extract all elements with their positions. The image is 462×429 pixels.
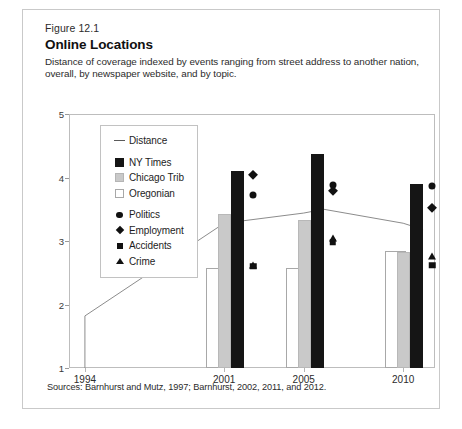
bar-chicago-trib-2010	[397, 252, 410, 368]
y-tick-label: 4	[59, 172, 64, 183]
legend-swatch	[115, 158, 124, 167]
line-icon	[110, 140, 129, 141]
x-tick-label: 2010	[392, 374, 414, 385]
legend-swatch	[116, 258, 124, 264]
marker-crime-2005	[329, 234, 337, 241]
bar-chicago-trib-2005	[298, 220, 311, 368]
figure-header: Figure 12.1 Online Locations Distance of…	[45, 22, 421, 81]
marker-politics-2001	[250, 191, 257, 198]
chart-legend: DistanceNY TimesChicago TribOregonianPol…	[100, 125, 198, 278]
marker-accidents-2010	[429, 262, 436, 269]
marker-politics-2010	[429, 183, 436, 190]
bar-ny-times-2001	[231, 171, 244, 368]
y-tick-label: 3	[59, 236, 64, 247]
legend-label: Crime	[129, 256, 155, 267]
legend-item-ny-times: NY Times	[110, 155, 184, 171]
white-square-icon	[110, 189, 129, 198]
legend-item-crime: Crime	[110, 254, 184, 270]
x-tick-mark	[224, 368, 225, 372]
legend-swatch	[114, 140, 125, 141]
gray-square-icon	[110, 173, 129, 182]
legend-swatch	[115, 226, 123, 234]
x-tick-mark	[403, 368, 404, 372]
y-tick-label: 1	[59, 363, 64, 374]
circle-icon	[110, 212, 129, 219]
y-tick-label: 2	[59, 299, 64, 310]
bar-ny-times-2005	[311, 154, 324, 368]
legend-label: Oregonian	[129, 188, 175, 199]
y-tick-mark	[65, 305, 69, 306]
diamond-icon	[110, 227, 129, 233]
square-icon	[110, 243, 129, 249]
x-tick-mark	[85, 368, 86, 372]
bar-ny-times-2010	[410, 184, 423, 368]
legend-item-employment: Employment	[110, 223, 184, 239]
legend-item-politics: Politics	[110, 207, 184, 223]
legend-label: Employment	[129, 225, 184, 236]
x-tick-mark	[304, 368, 305, 372]
legend-swatch	[115, 173, 124, 182]
legend-label: Politics	[129, 209, 160, 220]
legend-label: NY Times	[129, 157, 171, 168]
legend-swatch	[115, 189, 124, 198]
y-tick-mark	[65, 114, 69, 115]
legend-swatch	[117, 243, 123, 249]
marker-crime-2010	[428, 252, 436, 259]
marker-crime-2001	[249, 261, 257, 268]
legend-label: Distance	[129, 135, 167, 146]
chart-plot-area: 12345 1994200120052010 DistanceNY TimesC…	[69, 114, 435, 368]
figure-title: Online Locations	[45, 36, 421, 53]
sources-note: Sources: Barnhurst and Mutz, 1997; Barnh…	[47, 382, 326, 392]
black-square-icon	[110, 158, 129, 167]
legend-item-distance: Distance	[110, 133, 184, 149]
figure-subtitle: Distance of coverage indexed by events r…	[45, 56, 421, 81]
y-tick-mark	[65, 178, 69, 179]
legend-label: Chicago Trib	[129, 172, 184, 183]
legend-item-chicago-trib: Chicago Trib	[110, 170, 184, 186]
legend-swatch	[116, 212, 123, 219]
y-tick-mark	[65, 368, 69, 369]
triangle-icon	[110, 258, 129, 264]
legend-label: Accidents	[129, 240, 171, 251]
figure-panel: Figure 12.1 Online Locations Distance of…	[22, 9, 440, 409]
figure-number: Figure 12.1	[45, 22, 421, 35]
legend-item-oregonian: Oregonian	[110, 186, 184, 202]
legend-item-accidents: Accidents	[110, 238, 184, 254]
bar-chicago-trib-2001	[218, 214, 231, 368]
y-tick-label: 5	[59, 109, 64, 120]
y-tick-mark	[65, 241, 69, 242]
